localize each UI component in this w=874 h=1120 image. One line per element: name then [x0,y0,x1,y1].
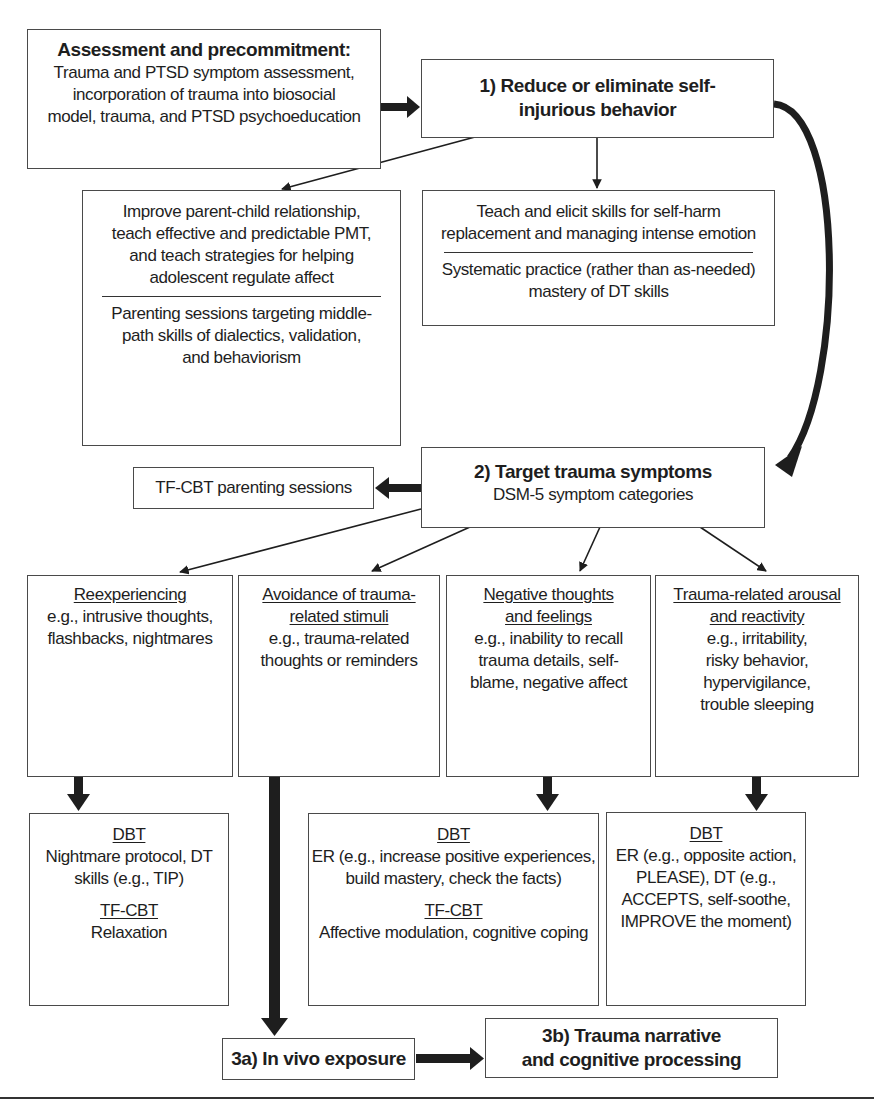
parent-text: and teach strategies for helping [83,245,400,267]
step3b-line: 3b) Trauma narrative [486,1024,777,1048]
symptom-example: e.g., inability to recall [447,628,650,650]
parent-sessions-text: and behaviorism [83,347,400,369]
treatment-text: PLEASE), DT (e.g., [607,867,805,889]
symptom-example: risky behavior, [656,650,858,672]
skills-box: Teach and elicit skills for self-harm re… [422,190,775,326]
skills-practice-text: mastery of DT skills [423,281,774,303]
skills-text: replacement and managing intense emotion [423,223,774,245]
arrow-assessment-to-step1 [381,96,420,118]
step3b-box: 3b) Trauma narrative and cognitive proce… [485,1018,778,1078]
symptom-box-reexperiencing: Reexperiencing e.g., intrusive thoughts,… [27,575,233,777]
tfcbt-parenting-label: TF-CBT parenting sessions [134,477,373,499]
parent-relationship-box: Improve parent-child relationship, teach… [82,190,401,446]
step3a-box: 3a) In vivo exposure [222,1038,415,1080]
assessment-box: Assessment and precommitment: Trauma and… [27,29,381,169]
divider [102,296,381,297]
symptom-example: e.g., intrusive thoughts, [28,606,232,628]
step2-subtitle: DSM-5 symptom categories [422,484,764,506]
step2-box: 2) Target trauma symptoms DSM-5 symptom … [421,447,765,528]
assessment-line: model, trauma, and PTSD psychoeducation [28,106,380,128]
symptom-example: e.g., trauma-related [239,628,439,650]
symptom-example: thoughts or reminders [239,650,439,672]
treatment-heading-dbt: DBT [309,824,598,846]
step2-title: 2) Target trauma symptoms [422,460,764,484]
treatment-text: Relaxation [30,922,228,944]
symptom-heading: and feelings [447,606,650,628]
treatment-heading-tfcbt: TF-CBT [30,900,228,922]
symptom-box-avoidance: Avoidance of trauma- related stimuli e.g… [238,575,440,777]
assessment-line: Trauma and PTSD symptom assessment, [28,62,380,84]
treatment-heading-tfcbt: TF-CBT [309,900,598,922]
symptom-heading: Avoidance of trauma- [239,584,439,606]
parent-sessions-text: path skills of dialectics, validation, [83,325,400,347]
tfcbt-parenting-box: TF-CBT parenting sessions [133,467,374,509]
symptom-example: trauma details, self- [447,650,650,672]
skills-practice-text: Systematic practice (rather than as-need… [423,259,774,281]
symptom-heading: Negative thoughts [447,584,650,606]
step1-title-line: injurious behavior [422,98,773,122]
symptom-example: trouble sleeping [656,694,858,716]
parent-text: adolescent regulate affect [83,267,400,289]
bottom-rule [0,1097,874,1099]
symptom-example: blame, negative affect [447,672,650,694]
treatment-text: ER (e.g., opposite action, [607,845,805,867]
treatment-text: IMPROVE the moment) [607,911,805,933]
arrow-step2-to-tfcbt-parenting [375,477,421,499]
symptom-heading: Trauma-related arousal [656,584,858,606]
treatment-text: ER (e.g., increase positive experiences, [309,846,598,868]
step1-box: 1) Reduce or eliminate self- injurious b… [421,59,774,138]
treatment-text: build mastery, check the facts) [309,868,598,890]
treatment-box-negative-thoughts: DBT ER (e.g., increase positive experien… [308,813,599,1006]
symptom-example: e.g., irritability, [656,628,858,650]
treatment-text: Affective modulation, cognitive coping [309,922,598,944]
parent-text: Improve parent-child relationship, [83,201,400,223]
symptom-heading: and reactivity [656,606,858,628]
symptom-heading: Reexperiencing [28,584,232,606]
step1-title-line: 1) Reduce or eliminate self- [422,74,773,98]
symptom-heading: related stimuli [239,606,439,628]
treatment-box-arousal: DBT ER (e.g., opposite action, PLEASE), … [606,812,806,1006]
symptom-example: hypervigilance, [656,672,858,694]
parent-text: teach effective and predictable PMT, [83,223,400,245]
skills-text: Teach and elicit skills for self-harm [423,201,774,223]
treatment-box-reexperiencing: DBT Nightmare protocol, DT skills (e.g.,… [29,813,229,1006]
symptom-box-negative-thoughts: Negative thoughts and feelings e.g., ina… [446,575,651,777]
symptom-box-arousal: Trauma-related arousal and reactivity e.… [655,575,859,777]
symptom-example: flashbacks, nightmares [28,628,232,650]
treatment-text: ACCEPTS, self-soothe, [607,889,805,911]
assessment-title: Assessment and precommitment: [28,38,380,62]
step3b-line: and cognitive processing [486,1048,777,1072]
step3a-label: 3a) In vivo exposure [223,1047,414,1071]
treatment-text: Nightmare protocol, DT [30,846,228,868]
treatment-heading-dbt: DBT [30,824,228,846]
treatment-heading-dbt: DBT [607,823,805,845]
divider [444,252,753,253]
curved-arrow-step1-to-step2 [774,104,829,477]
treatment-text: skills (e.g., TIP) [30,868,228,890]
parent-sessions-text: Parenting sessions targeting middle- [83,303,400,325]
assessment-line: incorporation of trauma into biosocial [28,84,380,106]
